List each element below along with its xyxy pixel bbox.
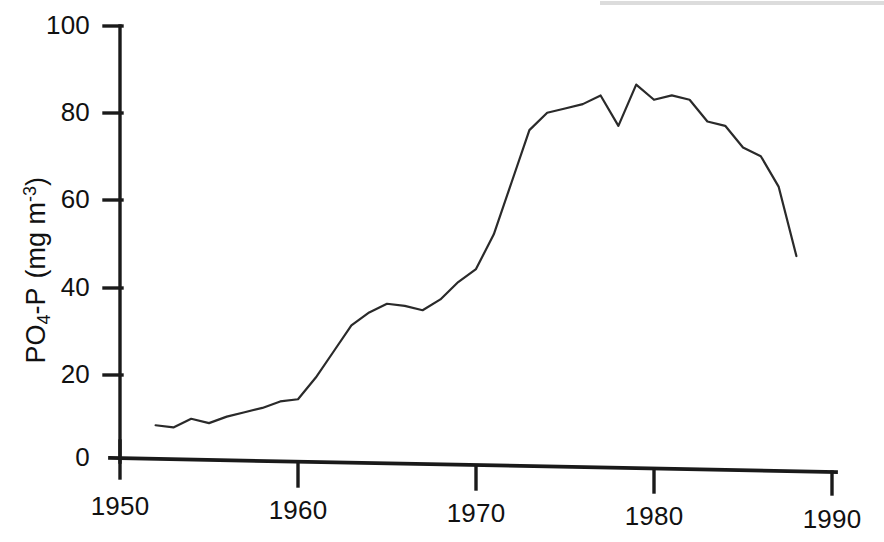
x-axis-ticks <box>120 441 832 494</box>
y-axis-title-unit-open: (mg m <box>21 202 51 279</box>
data-series-line <box>156 85 797 428</box>
x-tick-label-1980: 1980 <box>594 503 714 529</box>
x-tick-label-1970: 1970 <box>416 500 536 526</box>
y-axis-title-subscript: 4 <box>34 314 54 324</box>
plot-canvas <box>0 0 884 542</box>
y-axis-title: PO4-P(mg m-3) <box>15 110 59 430</box>
y-tick-label-100: 100 <box>10 12 90 38</box>
y-tick-label-0: 0 <box>10 444 90 470</box>
x-axis-line <box>110 458 836 472</box>
axis-lines <box>110 26 836 472</box>
y-axis-title-mid: -P <box>21 287 51 314</box>
x-tick-label-1950: 1950 <box>60 493 180 519</box>
x-tick-label-1960: 1960 <box>238 497 358 523</box>
y-axis-title-superscript: -3 <box>20 186 40 202</box>
chart-figure: 100 80 60 40 20 0 1950 1960 1970 1980 19… <box>0 0 884 542</box>
y-axis-title-unit-close: ) <box>21 177 51 186</box>
y-axis-title-prefix: PO <box>21 324 51 363</box>
x-tick-label-1990: 1990 <box>772 506 884 532</box>
